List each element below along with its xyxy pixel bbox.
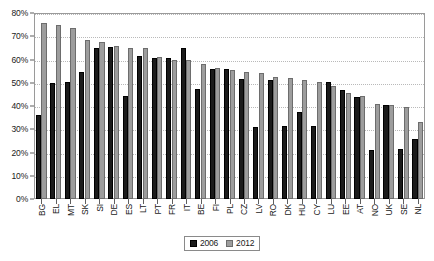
y-axis-tick-label: 10% xyxy=(12,171,28,181)
y-axis-tick-label: 50% xyxy=(12,78,28,88)
bar-2006-DE xyxy=(108,47,113,199)
bar-2012-PL xyxy=(230,70,235,199)
bar-2012-LV xyxy=(259,73,264,199)
x-axis-label-NO: NO xyxy=(370,204,380,216)
bars-layer xyxy=(34,13,425,199)
bar-2006-IT xyxy=(181,48,186,199)
x-axis-label-UK: UK xyxy=(384,204,394,215)
y-axis-tick-label: 20% xyxy=(12,148,28,158)
bar-group xyxy=(282,13,293,199)
bar-2006-EL xyxy=(50,83,55,199)
x-axis-label-AT: AT xyxy=(355,204,365,214)
bar-group xyxy=(311,13,322,199)
bar-2006-SE xyxy=(398,149,403,199)
bar-2012-CY xyxy=(317,82,322,199)
bar-2006-FR xyxy=(166,58,171,199)
bar-2012-NO xyxy=(375,104,380,199)
bar-2006-DK xyxy=(282,126,287,199)
legend-label-2006: 2006 xyxy=(200,238,218,248)
bar-2012-NL xyxy=(418,122,423,199)
x-axis-labels: BGELMTSKSIDEESLTPTFRITBEFIPLCZLVRODKHUCY… xyxy=(34,204,425,230)
bar-2006-EE xyxy=(340,90,345,199)
bar-2012-AT xyxy=(360,96,365,199)
x-axis-label-RO: RO xyxy=(268,204,278,216)
bar-2006-LU xyxy=(326,82,331,199)
bar-2006-UK xyxy=(383,105,388,199)
bar-2012-EL xyxy=(56,25,61,199)
legend-swatch-2012 xyxy=(226,240,233,247)
bar-group xyxy=(224,13,235,199)
bar-2012-FI xyxy=(215,68,220,199)
legend-swatch-2006 xyxy=(190,240,197,247)
x-axis-label-FR: FR xyxy=(167,204,177,215)
bar-2012-IT xyxy=(186,60,191,200)
bar-2006-LT xyxy=(137,56,142,199)
bar-group xyxy=(137,13,148,199)
bar-2012-SK xyxy=(85,40,90,199)
y-axis-tick-label: 70% xyxy=(12,31,28,41)
bar-2006-LV xyxy=(253,127,258,199)
bar-2012-DK xyxy=(288,78,293,199)
bar-group xyxy=(398,13,409,199)
bar-group xyxy=(326,13,337,199)
x-axis-label-IT: IT xyxy=(182,204,192,211)
bar-group xyxy=(412,13,423,199)
bar-group xyxy=(79,13,90,199)
bar-group xyxy=(94,13,105,199)
bar-group xyxy=(195,13,206,199)
bar-2012-LU xyxy=(331,86,336,199)
x-axis-label-LU: LU xyxy=(326,204,336,214)
bar-2012-FR xyxy=(172,60,177,200)
legend-label-2012: 2012 xyxy=(236,238,254,248)
y-axis-tick-label: 40% xyxy=(12,101,28,111)
bar-2012-HU xyxy=(302,80,307,199)
x-axis-label-DE: DE xyxy=(109,204,119,215)
y-axis-tick-label: 60% xyxy=(12,55,28,65)
x-axis-label-MT: MT xyxy=(66,204,76,216)
x-axis-label-EE: EE xyxy=(341,204,351,215)
x-axis-label-SK: SK xyxy=(80,204,90,215)
bar-group xyxy=(354,13,365,199)
legend-entry-2012: 2012 xyxy=(226,238,254,248)
bar-2012-DE xyxy=(114,46,119,199)
bar-2012-SE xyxy=(404,107,409,199)
y-axis-tick-label: 80% xyxy=(12,8,28,18)
bar-2012-ES xyxy=(128,48,133,199)
y-axis: 0%10%20%30%40%50%60%70%80% xyxy=(0,0,34,199)
bar-group xyxy=(36,13,47,199)
x-axis-label-DK: DK xyxy=(283,204,293,215)
chart-legend: 2006 2012 xyxy=(184,236,260,251)
bar-2012-EE xyxy=(346,93,351,199)
x-axis-label-NL: NL xyxy=(413,204,423,214)
bar-2012-BG xyxy=(41,23,46,199)
bar-group xyxy=(253,13,264,199)
x-axis-label-SE: SE xyxy=(399,204,409,215)
bar-2006-FI xyxy=(210,69,215,199)
x-axis-label-CY: CY xyxy=(312,204,322,215)
bar-group xyxy=(152,13,163,199)
bar-2012-CZ xyxy=(244,72,249,199)
bar-group xyxy=(65,13,76,199)
bar-2006-HU xyxy=(297,112,302,199)
x-axis-label-PL: PL xyxy=(225,204,235,214)
bar-2006-CZ xyxy=(239,79,244,199)
bar-2006-PL xyxy=(224,69,229,199)
bar-group xyxy=(383,13,394,199)
bar-group xyxy=(123,13,134,199)
bar-2006-NO xyxy=(369,150,374,199)
bar-2006-BG xyxy=(36,115,41,199)
bar-group xyxy=(210,13,221,199)
bar-chart: 0%10%20%30%40%50%60%70%80% BGELMTSKSIDEE… xyxy=(0,0,434,261)
bar-2012-SI xyxy=(99,42,104,199)
x-axis-label-EL: EL xyxy=(51,204,61,214)
bar-group xyxy=(50,13,61,199)
x-axis-label-BG: BG xyxy=(37,204,47,216)
bar-2006-RO xyxy=(268,80,273,199)
bar-2006-NL xyxy=(412,139,417,199)
bar-group xyxy=(108,13,119,199)
x-axis-label-HU: HU xyxy=(297,204,307,216)
bar-2012-BE xyxy=(201,64,206,199)
bar-2012-RO xyxy=(273,77,278,199)
y-axis-tick-label: 0% xyxy=(16,194,28,204)
bar-2006-SI xyxy=(94,48,99,199)
